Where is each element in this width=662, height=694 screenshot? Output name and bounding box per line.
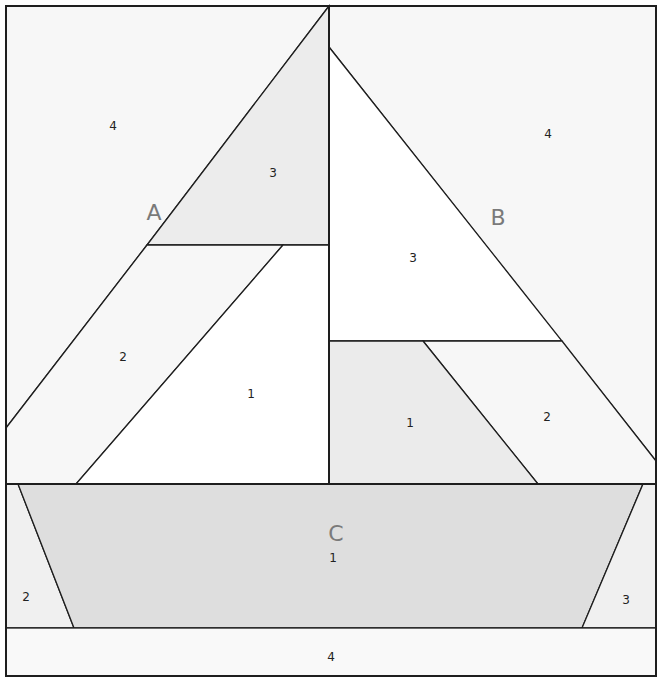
section-a-piece-3-number: 3 bbox=[269, 166, 277, 180]
section-c-piece-3-number: 3 bbox=[622, 593, 630, 607]
section-c-piece-1-number: 1 bbox=[329, 551, 337, 565]
section-a bbox=[6, 6, 329, 484]
section-c-piece-4-number: 4 bbox=[327, 650, 335, 664]
section-c bbox=[6, 484, 656, 676]
section-c-piece-2-number: 2 bbox=[22, 590, 30, 604]
section-a-piece-2-number: 2 bbox=[119, 350, 127, 364]
section-b-piece-3-number: 3 bbox=[409, 251, 417, 265]
section-b-label: B bbox=[490, 205, 505, 230]
section-a-piece-1-number: 1 bbox=[247, 387, 255, 401]
section-b-piece-1-number: 1 bbox=[406, 416, 414, 430]
section-b-piece-4-number: 4 bbox=[544, 127, 552, 141]
quilt-pattern-diagram: A B C 4 3 2 1 4 3 1 2 1 2 3 4 bbox=[0, 0, 662, 694]
section-b bbox=[329, 6, 656, 484]
section-a-label: A bbox=[146, 200, 161, 225]
section-a-piece-4-number: 4 bbox=[109, 119, 117, 133]
section-b-piece-2-number: 2 bbox=[543, 410, 551, 424]
section-c-label: C bbox=[328, 521, 343, 546]
